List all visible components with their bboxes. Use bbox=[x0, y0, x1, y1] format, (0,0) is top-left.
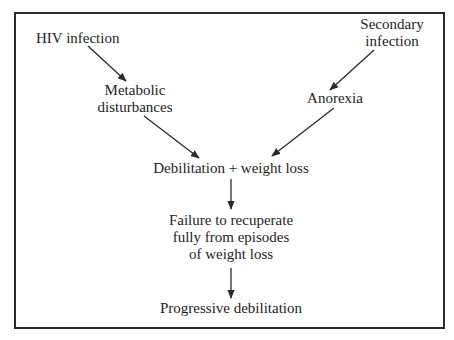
arrows-layer bbox=[0, 0, 454, 340]
arrow-secondary-to-anorexia bbox=[330, 50, 374, 90]
arrow-hiv-to-metabolic bbox=[88, 46, 126, 81]
arrow-anorexia-to-debilitation bbox=[272, 108, 334, 156]
arrow-metabolic-to-debilitation bbox=[144, 116, 199, 158]
